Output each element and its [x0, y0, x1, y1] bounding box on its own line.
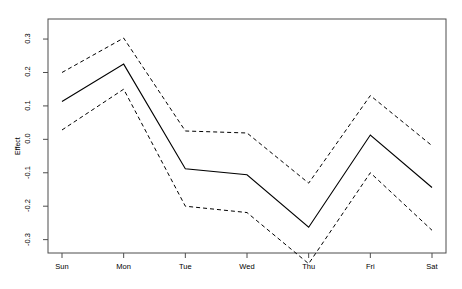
y-tick-label: 0.0 — [23, 128, 32, 150]
effect-line-chart — [0, 0, 462, 289]
y-tick-label: 0.2 — [23, 61, 32, 83]
x-axis-ticks — [62, 253, 432, 258]
plot-frame — [48, 19, 446, 253]
x-tick-label-fri: Fri — [350, 262, 390, 271]
series-line-upper-confidence-bound — [62, 38, 432, 183]
x-tick-label-thu: Thu — [289, 262, 329, 271]
x-tick-label-sun: Sun — [42, 262, 82, 271]
y-axis-ticks — [43, 39, 48, 240]
x-tick-label-tue: Tue — [165, 262, 205, 271]
y-tick-label: 0.1 — [23, 94, 32, 116]
x-tick-label-wed: Wed — [227, 262, 267, 271]
x-tick-label-sat: Sat — [412, 262, 452, 271]
y-tick-label: -0.2 — [23, 195, 32, 217]
y-tick-label: -0.3 — [23, 228, 32, 250]
y-axis-title: Effect — [14, 137, 21, 155]
series-line-lower-confidence-bound — [62, 89, 432, 263]
series-line-effect — [62, 64, 432, 227]
data-series-group — [62, 38, 432, 264]
y-tick-label: 0.3 — [23, 28, 32, 50]
y-tick-label: -0.1 — [23, 161, 32, 183]
chart-canvas: Effect 0.30.20.10.0-0.1-0.2-0.3 SunMonTu… — [0, 0, 462, 289]
x-tick-label-mon: Mon — [104, 262, 144, 271]
plot-box-border — [48, 19, 446, 253]
